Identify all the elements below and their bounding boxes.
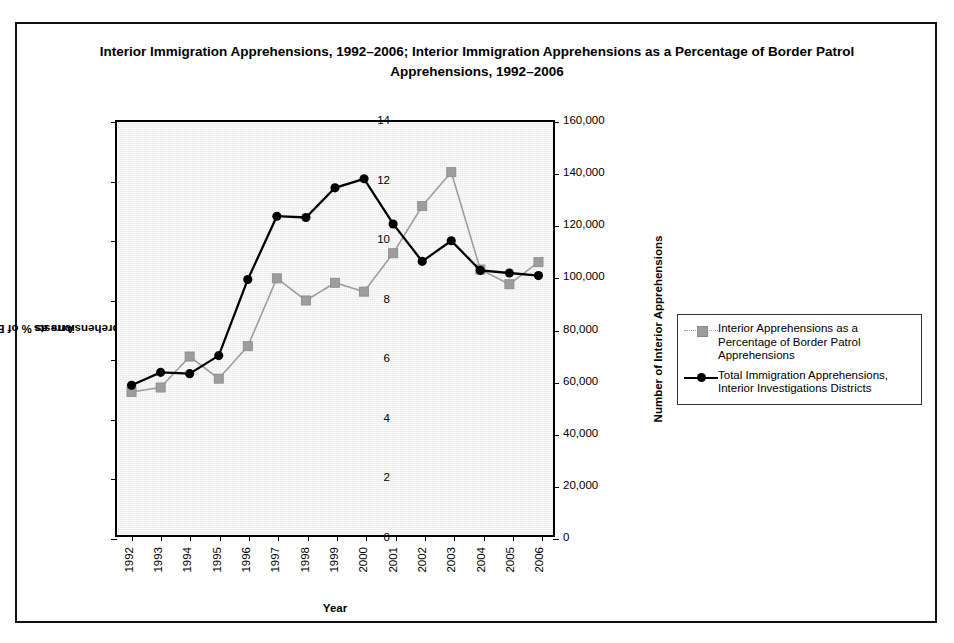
data-point-marker [156,383,165,392]
data-point-marker [301,296,310,305]
x-axis-tick-label: 2002 [416,547,428,573]
x-axis-tick [220,535,221,541]
y-axis-right-tick-label: 160,000 [563,114,643,126]
data-point-marker [272,274,281,283]
x-axis-tick-label: 2004 [475,547,487,573]
x-axis-tick [454,535,455,541]
y-axis-left-tick [111,539,117,540]
x-axis-tick [278,535,279,541]
y-axis-right-tick-label: 120,000 [563,218,643,230]
y-axis-right-tick [553,278,559,279]
y-axis-right-tick [553,331,559,332]
y-axis-left-tick-label: 14 [330,114,390,126]
data-point-marker [185,369,194,378]
y-axis-right-tick-label: 80,000 [563,323,643,335]
x-axis-tick [484,535,485,541]
x-axis-tick-label: 1999 [328,547,340,573]
y-axis-left-tick-label: 6 [330,352,390,364]
y-axis-left-title-line2: Arrests [34,322,74,336]
x-axis-tick [249,535,250,541]
data-point-marker [301,213,310,222]
data-point-marker [243,342,252,351]
y-axis-left-tick-label: 4 [330,412,390,424]
legend-key-circle [684,371,718,385]
y-axis-left-title: Interior Apprehensions as % of Border Pa… [43,120,65,537]
y-axis-left-tick-label: 12 [330,174,390,186]
y-axis-left-tick-label: 2 [330,471,390,483]
data-point-marker [156,368,165,377]
data-point-marker [447,236,456,245]
x-axis-tick-label: 1994 [181,547,193,573]
square-marker-icon [697,326,708,337]
y-axis-right-tick-label: 100,000 [563,270,643,282]
data-point-marker [505,268,514,277]
data-point-marker [418,257,427,266]
y-axis-right-tick-label: 140,000 [563,166,643,178]
data-point-marker [418,202,427,211]
data-point-marker [534,258,543,267]
chart-legend: Interior Apprehensions as a Percentage o… [677,314,922,405]
data-point-marker [389,249,398,258]
x-axis-tick-label: 2006 [533,547,545,573]
x-axis-title: Year [115,602,555,614]
y-axis-right-tick-label: 20,000 [563,479,643,491]
data-point-marker [389,219,398,228]
x-axis-tick-label: 2003 [445,547,457,573]
y-axis-right-tick-label: 60,000 [563,375,643,387]
legend-item-total[interactable]: Total Immigration Apprehensions, Interio… [684,369,913,396]
y-axis-right-tick [553,487,559,488]
data-point-marker [214,351,223,360]
x-axis-tick-label: 2000 [357,547,369,573]
data-point-marker [214,374,223,383]
y-axis-right-tick [553,226,559,227]
data-point-marker [127,381,136,390]
data-point-marker [505,280,514,289]
y-axis-right-tick [553,174,559,175]
x-axis-tick-label: 1995 [211,547,223,573]
x-axis-tick-label: 1996 [240,547,252,573]
y-axis-right-tick [553,383,559,384]
x-axis-tick-label: 2001 [387,547,399,573]
x-axis-tick [132,535,133,541]
legend-key-square [684,324,718,338]
data-point-marker [272,212,281,221]
data-point-marker [534,271,543,280]
legend-label-percentage: Interior Apprehensions as a Percentage o… [718,322,913,363]
x-axis-tick-label: 1992 [123,547,135,573]
data-point-marker [447,168,456,177]
y-axis-left-tick-label: 8 [330,293,390,305]
y-axis-right-tick [553,539,559,540]
x-axis-tick [513,535,514,541]
y-axis-right-tick [553,435,559,436]
y-axis-right-tick-label: 0 [563,531,643,543]
y-axis-right-tick-label: 40,000 [563,427,643,439]
y-axis-left-tick-label: 10 [330,233,390,245]
x-axis-tick-label: 1998 [299,547,311,573]
data-point-marker [243,275,252,284]
y-axis-right-title: Number of Interior Apprehensions [647,120,669,537]
circle-marker-icon [697,373,706,382]
x-axis-tick [396,535,397,541]
x-axis-tick [425,535,426,541]
chart-title: Interior Immigration Apprehensions, 1992… [77,42,877,82]
data-point-marker [185,352,194,361]
x-axis-tick-label: 1993 [152,547,164,573]
x-axis-tick [542,535,543,541]
legend-item-percentage[interactable]: Interior Apprehensions as a Percentage o… [684,322,913,363]
x-axis-tick-label: 1997 [269,547,281,573]
x-axis-tick-label: 2005 [504,547,516,573]
data-point-marker [330,278,339,287]
x-axis-tick [190,535,191,541]
figure-frame: Interior Immigration Apprehensions, 1992… [15,22,937,623]
x-axis-tick [161,535,162,541]
y-axis-right-tick [553,122,559,123]
x-axis-tick [308,535,309,541]
data-point-marker [476,266,485,275]
legend-label-total: Total Immigration Apprehensions, Interio… [718,369,913,396]
y-axis-left-tick-label: 0 [330,531,390,543]
